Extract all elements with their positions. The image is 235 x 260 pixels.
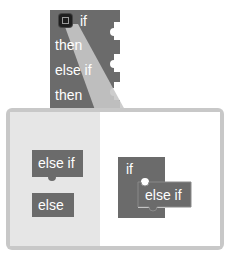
gear-icon[interactable] bbox=[59, 14, 72, 27]
then-label: then bbox=[55, 37, 82, 53]
container-if-label: if bbox=[126, 161, 133, 177]
then-label-2: then bbox=[55, 87, 82, 103]
flyout-else-label: else bbox=[38, 197, 64, 213]
flyout-else-if-label: else if bbox=[38, 155, 75, 171]
child-else-if-label: else if bbox=[145, 187, 182, 203]
else-if-label: else if bbox=[55, 62, 92, 78]
canvas bbox=[0, 0, 235, 260]
if-label: if bbox=[80, 13, 87, 29]
